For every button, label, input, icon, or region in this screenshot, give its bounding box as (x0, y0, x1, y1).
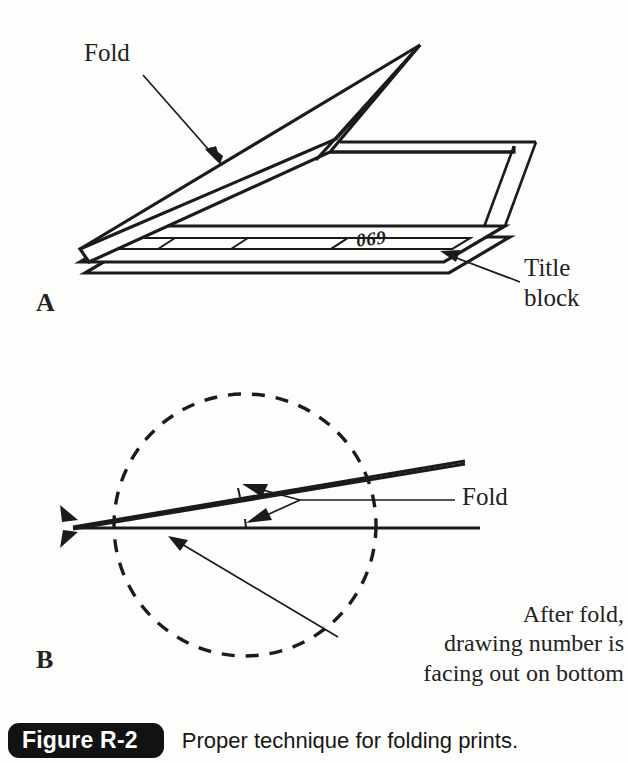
panel-label-a: A (36, 288, 55, 319)
drawing-number-text: 069 (355, 226, 387, 251)
after-fold-note: After fold, drawing number is facing out… (328, 600, 624, 688)
note-arrowhead-b (168, 536, 188, 551)
figure-caption-bar: Figure R-2 Proper technique for folding … (0, 718, 628, 763)
fold-leader-line-a (143, 75, 216, 158)
fold-arrowhead-b-lower (246, 508, 272, 523)
apex-arrowhead-lower (60, 530, 78, 548)
fold-tick-upper (238, 488, 240, 497)
figure-caption-text: Proper technique for folding prints. (182, 728, 518, 754)
title-block-label: Title block (524, 253, 580, 312)
note-leader-line-b (175, 540, 338, 637)
figure-page: Fold Title block 069 A Fold After fold, … (0, 0, 628, 763)
panel-b-fold-label: Fold (462, 482, 508, 512)
apex-arrowhead-upper (60, 505, 78, 522)
figure-number-badge: Figure R-2 (8, 723, 164, 759)
folded-flap-edge-lower (80, 45, 420, 249)
panel-label-b: B (36, 645, 53, 676)
sheet-back-edge-left-return (330, 146, 514, 152)
panel-a-drawing (80, 45, 536, 282)
drawing-number-cell (331, 238, 470, 249)
panel-a-fold-label: Fold (84, 38, 130, 68)
fold-tick-lower (245, 519, 246, 528)
